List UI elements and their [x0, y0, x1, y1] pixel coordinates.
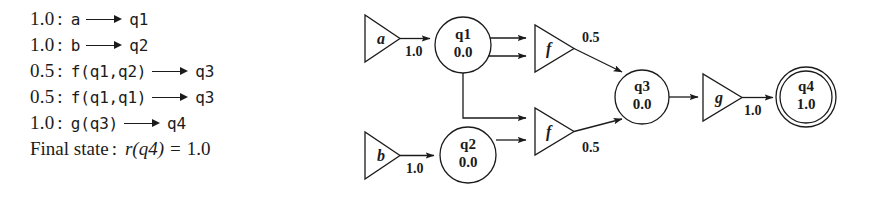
rule-rhs: q4	[167, 114, 186, 133]
state-value-q1: 0.0	[454, 44, 473, 60]
transition-symbol-a: a	[377, 30, 385, 47]
final-state-label: Final state	[30, 138, 109, 159]
rule-lhs: b	[71, 36, 80, 55]
rule-colon: :	[54, 8, 70, 29]
state-value-q3: 0.0	[633, 96, 652, 112]
edge-weight-a: 1.0	[405, 44, 423, 59]
transition-a[interactable]: a 1.0	[365, 15, 430, 62]
rule-weight: 0.5	[30, 60, 54, 81]
rule-rhs: q1	[129, 10, 148, 29]
rule-line: 1.0:bq2	[30, 32, 320, 58]
state-value-q2: 0.0	[459, 154, 478, 170]
transition-f-top[interactable]: f 0.5	[535, 25, 622, 72]
state-value-q4: 1.0	[797, 96, 816, 112]
automaton-diagram: a 1.0 q1 0.0 f 0.5 q2 0.0 b 1.0 f 0.5	[330, 0, 872, 200]
state-name-q3: q3	[634, 78, 650, 94]
rule-colon: :	[54, 34, 70, 55]
final-state-value: 1.0	[187, 138, 211, 159]
rule-weight: 0.5	[30, 86, 54, 107]
edge-q1-to-f-bottom	[463, 73, 526, 118]
transition-symbol-g: g	[714, 89, 723, 107]
rule-line: 0.5:f(q1,q2)q3	[30, 58, 320, 84]
rules-panel: 1.0:aq1 1.0:bq2 0.5:f(q1,q2)q3 0.5:f(q1,…	[30, 6, 320, 196]
rule-line: 0.5:f(q1,q1)q3	[30, 84, 320, 110]
edge-weight-f-top: 0.5	[582, 30, 600, 45]
rule-colon: :	[54, 60, 70, 81]
rule-rhs: q3	[195, 88, 214, 107]
final-state-line: Final state:r(q4)=1.0	[30, 136, 320, 162]
rule-arrow-icon	[124, 119, 160, 128]
rule-arrow-icon	[86, 15, 122, 24]
rule-lhs: f(q1,q2)	[71, 62, 146, 81]
rule-colon: :	[54, 86, 70, 107]
edge-weight-g: 1.0	[744, 103, 762, 118]
transition-b[interactable]: b 1.0	[365, 132, 434, 179]
rule-arrow-icon	[86, 41, 122, 50]
rule-colon: :	[54, 112, 70, 133]
edge-weight-f-bottom: 0.5	[582, 140, 600, 155]
final-state-arg: q4	[139, 138, 158, 159]
transition-g[interactable]: g 1.0	[703, 74, 773, 121]
transition-triangle-f-top	[535, 25, 574, 72]
rule-lhs: g(q3)	[71, 114, 118, 133]
final-state-equals: =	[164, 138, 187, 159]
transition-triangle-f-bottom	[535, 108, 574, 155]
state-q3[interactable]: q3 0.0	[615, 70, 669, 124]
state-q4[interactable]: q4 1.0	[776, 67, 836, 127]
edge-f-bottom-to-q3	[574, 119, 622, 132]
state-name-q1: q1	[455, 26, 471, 42]
rule-lhs: f(q1,q1)	[71, 88, 146, 107]
state-q1[interactable]: q1 0.0	[435, 17, 491, 73]
rule-weight: 1.0	[30, 112, 54, 133]
rule-arrow-icon	[152, 67, 188, 76]
transition-f-bottom[interactable]: f 0.5	[535, 108, 622, 155]
final-state-colon: :	[109, 138, 125, 159]
state-name-q4: q4	[798, 78, 814, 94]
state-name-q2: q2	[460, 136, 476, 152]
transition-symbol-b: b	[377, 147, 385, 164]
rule-line: 1.0:aq1	[30, 6, 320, 32]
rule-weight: 1.0	[30, 34, 54, 55]
rule-rhs: q2	[129, 36, 148, 55]
rule-lhs: a	[71, 10, 80, 29]
rule-weight: 1.0	[30, 8, 54, 29]
state-q2[interactable]: q2 0.0	[440, 127, 496, 183]
rule-line: 1.0:g(q3)q4	[30, 110, 320, 136]
rule-rhs: q3	[195, 62, 214, 81]
edge-weight-b: 1.0	[406, 161, 424, 176]
rule-arrow-icon	[152, 93, 188, 102]
edge-f-top-to-q3	[574, 49, 622, 73]
